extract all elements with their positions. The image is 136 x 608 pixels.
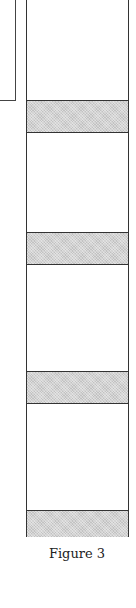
left-partial-box bbox=[0, 0, 16, 101]
shaded-band-3 bbox=[27, 371, 128, 404]
shaded-band-1 bbox=[27, 100, 128, 133]
shaded-band-2 bbox=[27, 232, 128, 265]
figure-caption: Figure 3 bbox=[0, 546, 136, 561]
shaded-band-4 bbox=[27, 510, 128, 537]
layered-column bbox=[26, 0, 129, 537]
